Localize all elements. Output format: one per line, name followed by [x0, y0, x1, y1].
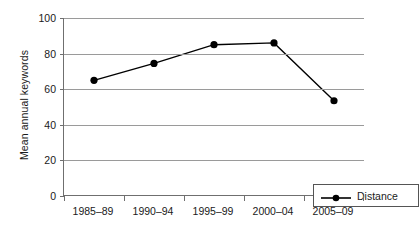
data-series-layer [64, 18, 364, 196]
y-axis-tick-label: 20 [30, 155, 56, 165]
y-axis-tick-label: 0 [30, 191, 56, 201]
x-axis-tick-mark [64, 196, 65, 201]
x-axis-tick-mark [184, 196, 185, 201]
x-axis-tick-labels: 1985–891990–941995–992000–042005–09 [63, 205, 363, 221]
data-point-marker [330, 97, 337, 104]
gridline [64, 89, 364, 90]
x-axis-tick-mark [244, 196, 245, 201]
y-axis-tick-mark [60, 18, 64, 19]
gridline [64, 18, 364, 19]
y-axis-tick-label: 60 [30, 84, 56, 94]
data-point-marker [90, 77, 97, 84]
gridline [64, 54, 364, 55]
plot-area: Distance [63, 18, 363, 196]
y-axis-tick-label: 40 [30, 120, 56, 130]
y-axis-tick-mark [60, 125, 64, 126]
legend-line-marker-icon [321, 190, 351, 202]
x-axis-tick-label: 2005–09 [293, 205, 373, 217]
x-axis-tick-mark [363, 196, 364, 201]
y-axis-tick-labels: 020406080100 [28, 0, 56, 233]
x-axis-tick-mark [124, 196, 125, 201]
y-axis-tick-mark [60, 54, 64, 55]
data-point-marker [270, 39, 277, 46]
x-axis-tick-mark [304, 196, 305, 201]
series-line-distance [94, 43, 334, 101]
gridline [64, 125, 364, 126]
y-axis-tick-mark [60, 160, 64, 161]
data-point-marker [150, 60, 157, 67]
y-axis-tick-label: 80 [30, 49, 56, 59]
data-point-marker [210, 41, 217, 48]
y-axis-tick-label: 100 [30, 13, 56, 23]
y-axis-tick-mark [60, 89, 64, 90]
gridline [64, 160, 364, 161]
legend[interactable]: Distance [313, 184, 419, 207]
